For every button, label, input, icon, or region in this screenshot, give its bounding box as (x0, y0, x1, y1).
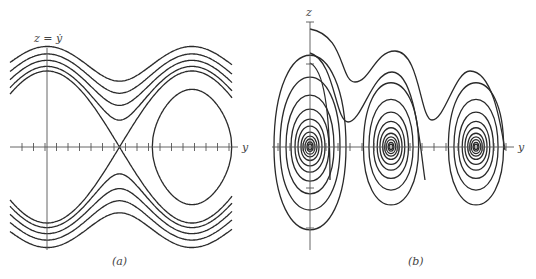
panel-a: z = ẏ y (a) (10, 32, 249, 268)
panel-b-ticks (278, 22, 506, 228)
panel-a-caption: (a) (112, 255, 127, 268)
panel-a-horizontal-axis-label: y (241, 141, 249, 154)
running-trajectory (10, 54, 232, 93)
phase-portrait-figure: z = ẏ y (a) z y (b) (0, 0, 536, 279)
running-trajectory (10, 47, 232, 82)
running-trajectory (10, 201, 232, 240)
panel-b-trajectories (274, 29, 505, 230)
separatrix (10, 148, 232, 223)
spiral-trajectory (462, 121, 490, 170)
running-trajectory (10, 213, 232, 248)
separatrix (10, 71, 232, 146)
panel-b-vertical-axis-label: z (305, 6, 312, 19)
spiral-trajectory (459, 112, 494, 178)
panel-b-caption: (b) (408, 255, 424, 268)
spiral-trajectory (377, 121, 405, 170)
panel-b: z y (b) (272, 6, 525, 268)
panel-a-vertical-axis-label: z = ẏ (33, 32, 63, 45)
panel-b-horizontal-axis-label: y (517, 141, 525, 154)
spiral-trajectory (374, 112, 409, 178)
